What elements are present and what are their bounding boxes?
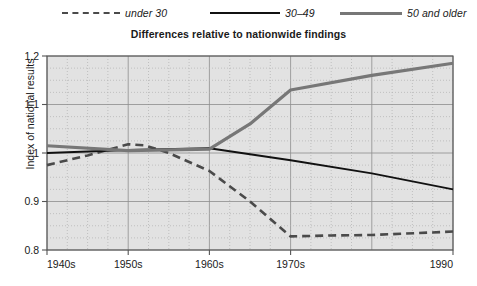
x-axis-tick-label: 1940s <box>47 258 76 270</box>
y-axis-tick-label: 1 <box>33 147 39 159</box>
x-axis-tick-label: 1990 <box>430 258 454 270</box>
y-axis-tick-label: 1.2 <box>24 50 39 62</box>
x-axis-tick-label: 1960s <box>195 258 224 270</box>
chart-plot-area: 0.80.911.11.21940s1950s1960s1970s1990 <box>0 0 477 286</box>
y-axis-tick-label: 1.1 <box>24 98 39 110</box>
x-axis-tick-label: 1950s <box>114 258 143 270</box>
y-axis-tick-label: 0.9 <box>24 195 39 207</box>
y-axis-tick-label: 0.8 <box>24 244 39 256</box>
x-axis-tick-label: 1970s <box>276 258 305 270</box>
